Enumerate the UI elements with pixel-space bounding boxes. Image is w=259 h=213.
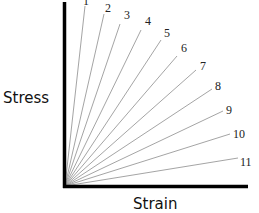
- line-11: [65, 158, 238, 186]
- line-label-4: 4: [145, 14, 151, 28]
- x-axis-label: Strain: [133, 195, 177, 213]
- line-label-5: 5: [164, 26, 170, 40]
- line-label-11: 11: [240, 155, 252, 169]
- line-5: [65, 40, 161, 186]
- line-label-6: 6: [181, 41, 187, 55]
- y-axis-label: Stress: [3, 89, 49, 107]
- stress-strain-lines: [65, 6, 238, 186]
- line-10: [65, 134, 230, 186]
- line-label-1: 1: [83, 0, 89, 8]
- stress-strain-diagram: 1234567891011 Stress Strain: [0, 0, 259, 213]
- line-label-3: 3: [124, 8, 130, 22]
- line-label-2: 2: [105, 1, 111, 15]
- line-9: [65, 111, 223, 186]
- line-1: [65, 6, 85, 186]
- line-8: [65, 89, 212, 186]
- line-4: [65, 30, 141, 186]
- line-labels: 1234567891011: [83, 0, 252, 169]
- line-label-10: 10: [233, 127, 245, 141]
- line-label-7: 7: [200, 59, 206, 73]
- line-2: [65, 14, 104, 186]
- line-label-8: 8: [215, 79, 221, 93]
- line-label-9: 9: [226, 103, 232, 117]
- line-6: [65, 56, 177, 186]
